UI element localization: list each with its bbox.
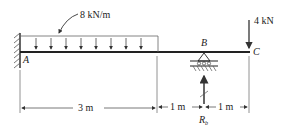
dimension-extension-lines [20, 56, 249, 113]
dimension-label-1m-ab: 1 m [170, 101, 186, 112]
point-load-label: 4 kN [254, 15, 274, 26]
roller-support-b [190, 53, 218, 71]
reaction-label: Rb [198, 114, 208, 126]
dimension-lines [22, 107, 247, 108]
fixed-support-a [14, 33, 20, 68]
point-c-label: C [253, 46, 260, 57]
dimension-label-3m: 3 m [78, 102, 94, 113]
distributed-load-label: 8 kN/m [80, 9, 111, 20]
reaction-arrow-b [200, 76, 208, 104]
dimension-label-1m-bc: 1 m [218, 101, 234, 112]
point-a-label: A [22, 54, 30, 65]
point-b-label: B [201, 37, 207, 48]
beam-diagram: 8 kN/m A B C 4 kN Rb [0, 0, 288, 136]
